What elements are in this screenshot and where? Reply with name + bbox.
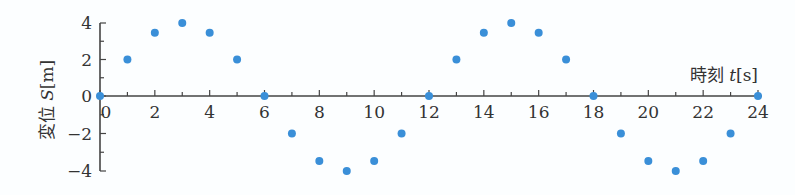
data-point	[398, 130, 406, 138]
x-tick-label: 14	[473, 102, 495, 122]
y-tick-label: −4	[67, 161, 92, 181]
data-point	[261, 92, 269, 100]
y-tick-label: 0	[81, 86, 92, 106]
data-point	[233, 56, 241, 64]
y-tick-label: 2	[81, 50, 92, 70]
data-point	[617, 130, 625, 138]
x-tick-label: 12	[418, 102, 440, 122]
data-point	[590, 92, 598, 100]
data-point	[151, 29, 159, 37]
x-tick-label: 24	[747, 102, 769, 122]
data-point	[535, 29, 543, 37]
data-point	[672, 167, 680, 175]
x-tick-label: 18	[583, 102, 605, 122]
data-point	[452, 56, 460, 64]
x-tick-label: 2	[149, 102, 160, 122]
data-point	[343, 167, 351, 175]
x-tick-label: 16	[528, 102, 550, 122]
data-point	[699, 157, 707, 165]
chart-svg: 420−2−4024681012141618202224時刻 t[s]変位 S[…	[0, 0, 795, 195]
y-tick-label: −2	[67, 124, 92, 144]
y-tick-label: 4	[81, 13, 92, 33]
x-axis-title: 時刻 t[s]	[690, 65, 758, 85]
data-point	[96, 92, 104, 100]
data-point	[288, 130, 296, 138]
data-point	[644, 157, 652, 165]
data-point	[178, 19, 186, 27]
x-tick-label: 8	[314, 102, 325, 122]
x-tick-label: 0	[101, 102, 112, 122]
x-tick-label: 20	[638, 102, 660, 122]
data-point	[206, 29, 214, 37]
displacement-time-chart: 420−2−4024681012141618202224時刻 t[s]変位 S[…	[0, 0, 795, 195]
data-point	[123, 56, 131, 64]
data-point	[425, 92, 433, 100]
y-axis-title: 変位 S[m]	[37, 60, 57, 140]
x-tick-label: 22	[692, 102, 714, 122]
data-point	[754, 92, 762, 100]
data-point	[507, 19, 515, 27]
x-tick-label: 4	[204, 102, 215, 122]
data-point	[370, 157, 378, 165]
data-point	[480, 29, 488, 37]
x-tick-label: 10	[363, 102, 385, 122]
data-point	[315, 157, 323, 165]
data-point	[562, 56, 570, 64]
x-tick-label: 6	[259, 102, 270, 122]
data-point	[727, 130, 735, 138]
